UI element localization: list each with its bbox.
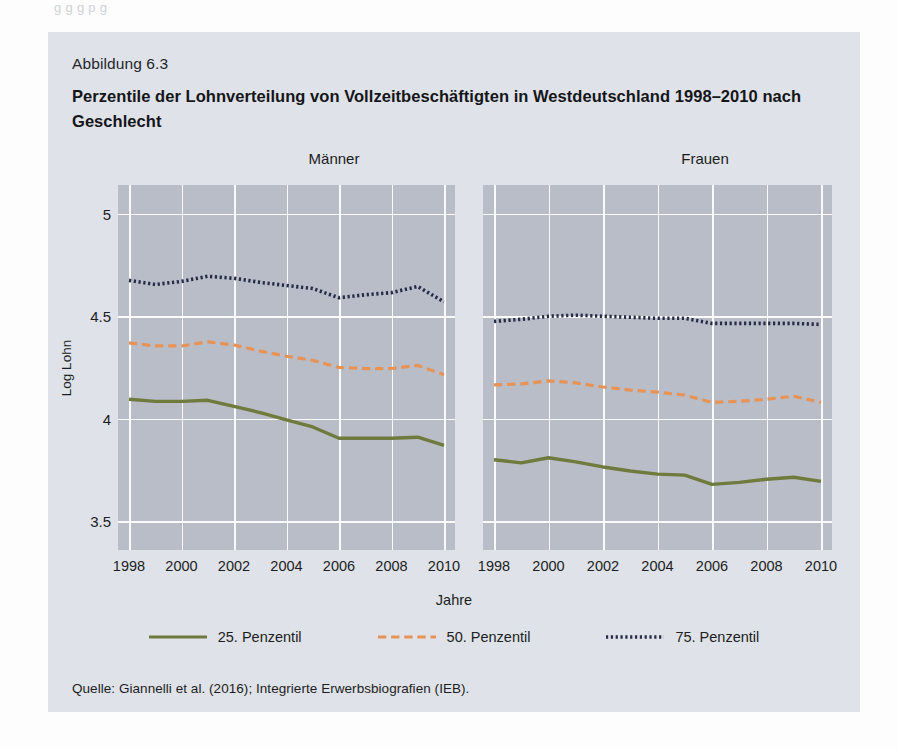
legend-swatch-icon [378,632,436,642]
series-line-p25 [494,458,821,485]
series-line-p75 [129,276,444,302]
x-axis-title: Jahre [48,592,860,608]
figure-container: Abbildung 6.3 Perzentile der Lohnverteil… [48,32,860,712]
legend-swatch-icon [606,632,664,642]
x-axis-tick-label: 2004 [641,558,673,574]
x-axis-tick-label: 2004 [270,558,302,574]
y-axis-tick-label: 4 [103,410,111,427]
x-axis-tick-label: 2000 [165,558,197,574]
x-axis-tick-label: 2006 [323,558,355,574]
x-axis-tick-label: 2010 [428,558,460,574]
plot-area-maenner: 3.544.551998200020022004200620082010 [118,185,455,550]
y-axis-title: Log Lohn [59,340,74,396]
x-axis-tick-label: 2008 [750,558,782,574]
x-axis-tick-label: 2008 [375,558,407,574]
y-axis-tick-label: 5 [103,205,111,222]
figure-title: Perzentile der Lohnverteilung von Vollze… [72,84,832,134]
y-axis-tick-label: 3.5 [90,513,111,530]
series-line-p50 [494,381,821,403]
chart-legend: 25. Penzentil50. Penzentil75. Penzentil [48,629,860,645]
figure-source: Quelle: Giannelli et al. (2016); Integri… [72,681,469,696]
legend-label: 75. Penzentil [675,629,759,645]
legend-item-2[interactable]: 50. Penzentil [378,629,531,645]
x-axis-tick-label: 2006 [696,558,728,574]
panel-title-frauen: Frauen [605,150,805,167]
legend-item-3[interactable]: 75. Penzentil [606,629,759,645]
page-bleed-through-text: g g g p g [54,0,834,22]
y-axis-tick-label: 4.5 [90,308,111,325]
x-axis-tick-label: 2000 [532,558,564,574]
series-layer [118,185,455,550]
x-axis-tick-label: 1998 [478,558,510,574]
legend-item-1[interactable]: 25. Penzentil [149,629,302,645]
x-axis-tick-label: 1998 [113,558,145,574]
legend-label: 50. Penzentil [447,629,531,645]
x-axis-tick-label: 2010 [805,558,837,574]
series-line-p50 [129,342,444,375]
x-axis-tick-label: 2002 [587,558,619,574]
plot-area-frauen: 1998200020022004200620082010 [483,185,832,550]
series-line-p75 [494,315,821,324]
legend-swatch-icon [149,632,207,642]
x-axis-tick-label: 2002 [218,558,250,574]
series-line-p25 [129,399,444,445]
series-layer [483,185,832,550]
figure-number: Abbildung 6.3 [72,55,168,73]
legend-label: 25. Penzentil [218,629,302,645]
panel-title-maenner: Männer [234,150,434,167]
